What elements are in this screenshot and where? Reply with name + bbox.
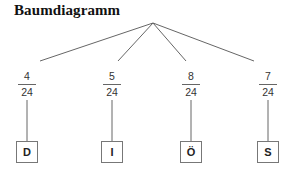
numerator: 5	[100, 71, 124, 84]
outcome-node-d: D	[16, 141, 38, 163]
branch-line-s	[153, 23, 254, 61]
tree-lines	[0, 0, 286, 175]
probability-i: 5 24	[100, 71, 124, 97]
denominator: 24	[100, 85, 124, 98]
outcome-node-s: S	[257, 141, 279, 163]
numerator: 8	[179, 71, 203, 84]
probability-s: 7 24	[256, 71, 280, 97]
probability-oe: 8 24	[179, 71, 203, 97]
numerator: 7	[256, 71, 280, 84]
outcome-node-i: I	[101, 141, 123, 163]
outcome-node-oe: Ö	[180, 141, 202, 163]
probability-d: 4 24	[15, 71, 39, 97]
numerator: 4	[15, 71, 39, 84]
denominator: 24	[15, 85, 39, 98]
denominator: 24	[179, 85, 203, 98]
denominator: 24	[256, 85, 280, 98]
